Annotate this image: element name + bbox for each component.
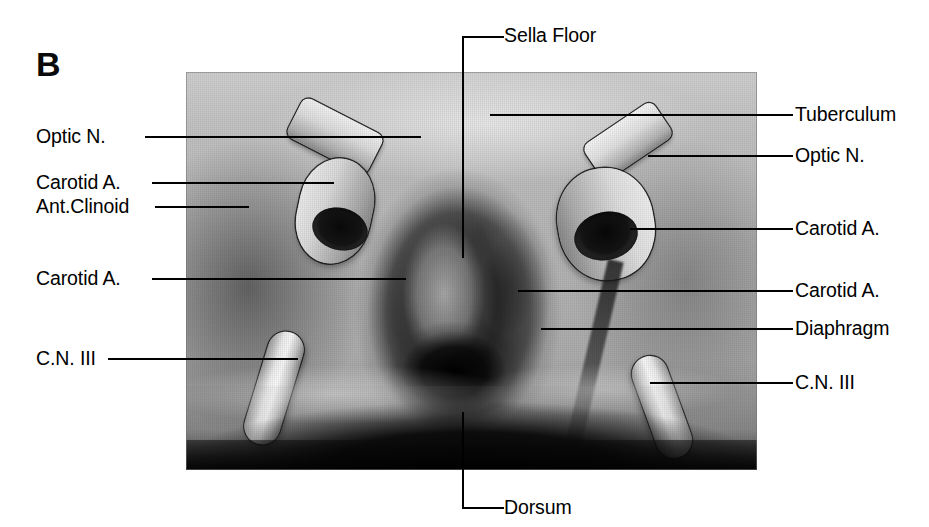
- leader-carotid-a-left-lower: [152, 278, 406, 280]
- label-diaphragm: Diaphragm: [795, 319, 889, 339]
- label-ant-clinoid: Ant.Clinoid: [36, 197, 129, 217]
- leader-cn-iii-left: [108, 358, 298, 360]
- leader-tuberculum: [490, 114, 793, 116]
- leader-optic-n-left: [145, 136, 421, 138]
- leader-sella-floor-vertical: [462, 36, 464, 258]
- anatomy-figure-panel: B: [0, 0, 929, 527]
- label-carotid-a-right-lower: Carotid A.: [795, 281, 880, 301]
- leader-diaphragm: [541, 328, 793, 330]
- leader-cn-iii-right: [650, 382, 793, 384]
- leader-ant-clinoid: [155, 206, 249, 208]
- label-cn-iii-right: C.N. III: [795, 373, 855, 393]
- label-sella-floor: Sella Floor: [504, 26, 596, 46]
- label-dorsum: Dorsum: [504, 498, 572, 518]
- leader-carotid-a-right-lower: [518, 290, 793, 292]
- leader-carotid-a-left-upper: [152, 182, 334, 184]
- label-cn-iii-left: C.N. III: [36, 349, 96, 369]
- leader-dorsum-vertical: [462, 412, 464, 509]
- photo-border: [186, 72, 757, 470]
- leader-sella-floor-horizontal: [462, 36, 504, 38]
- leader-dorsum-horizontal: [462, 507, 504, 509]
- label-carotid-a-left-lower: Carotid A.: [36, 269, 121, 289]
- panel-letter: B: [36, 47, 61, 81]
- label-optic-n-right: Optic N.: [795, 146, 865, 166]
- label-optic-n-left: Optic N.: [36, 127, 106, 147]
- leader-carotid-a-right-upper: [630, 228, 793, 230]
- specimen-photograph: [186, 72, 757, 470]
- label-tuberculum: Tuberculum: [795, 105, 896, 125]
- label-carotid-a-left-upper: Carotid A.: [36, 173, 121, 193]
- leader-optic-n-right: [648, 155, 793, 157]
- label-carotid-a-right-upper: Carotid A.: [795, 219, 880, 239]
